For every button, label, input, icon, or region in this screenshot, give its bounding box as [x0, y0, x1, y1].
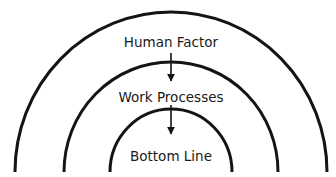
concentric-arcs-diagram: Human Factor Work Processes Bottom Line: [0, 0, 336, 177]
label-work-processes: Work Processes: [118, 89, 223, 105]
label-bottom-line: Bottom Line: [130, 148, 212, 164]
diagram-canvas: Human Factor Work Processes Bottom Line: [0, 0, 336, 177]
label-human-factor: Human Factor: [124, 34, 219, 50]
